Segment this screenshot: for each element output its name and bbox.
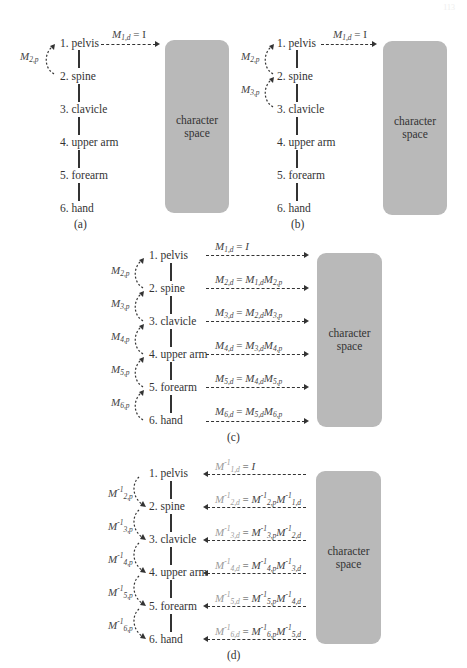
joint-pelvis: 1. pelvis [149,467,188,479]
dashed-arrow-right-icon [206,387,305,388]
curved-arrow-up-icon [133,258,147,290]
inverse-transform-label: M-11,d = I [215,457,255,476]
curved-arrow-up-icon [133,390,147,422]
local-transform-label: M3,p [111,297,130,313]
bone [296,117,298,135]
caption-c: (c) [227,431,240,443]
bone [170,296,172,314]
character-space-label: characterspace [317,327,382,353]
inverse-transform-label: M-16,d = M-16,pM-15,d [215,622,301,641]
dashed-arrow-right-icon [206,255,305,256]
bone [170,580,172,598]
curved-arrow-up-icon [263,77,277,109]
curved-arrow-down-icon [133,608,147,640]
joint-spine: 2. spine [149,282,185,294]
local-transform-label: M5,p [111,363,130,379]
caption-d: (d) [227,649,240,661]
bone [78,183,80,201]
joint-upper-arm: 4. upper arm [277,136,335,148]
curved-arrow-up-icon [133,357,147,389]
curved-arrow-up-icon [263,44,277,76]
dashed-arrow-right-icon [206,354,305,355]
bone [296,150,298,168]
joint-hand: 6. hand [149,633,183,645]
joint-forearm: 5. forearm [277,169,325,181]
dashed-arrow-left-icon [207,507,306,508]
bone [78,50,80,68]
character-space-box: characterspace [317,253,382,427]
dashed-arrow-right-icon [206,421,305,422]
bone [170,514,172,532]
local-transform-label: M6,p [111,396,130,412]
character-space-label: characterspace [316,545,381,571]
joint-hand: 6. hand [60,202,94,214]
dashed-arrow-left-icon [207,573,306,574]
character-space-box: characterspace [165,40,229,213]
joint-pelvis: 1. pelvis [149,249,188,261]
joint-hand: 6. hand [149,414,183,426]
bone [170,614,172,632]
bone [170,395,172,413]
inverse-transform-label: M-14,d = M-14,pM-13,d [215,556,301,575]
character-space-box: characterspace [383,41,447,215]
bone [296,84,298,102]
character-space-box: characterspace [316,471,381,644]
curved-arrow-down-icon [133,476,147,508]
bone [170,263,172,281]
joint-clavicle: 3. clavicle [149,315,196,327]
bone [296,183,298,201]
joint-forearm: 5. forearm [149,381,197,393]
dashed-arrow-left-icon [207,540,306,541]
global-transform-label: M5,d = M4,dM5,p [215,372,282,388]
joint-upper-arm: 4. upper arm [60,136,118,148]
bone [78,117,80,135]
joint-forearm: 5. forearm [149,600,197,612]
curved-arrow-up-icon [44,44,58,76]
joint-spine: 2. spine [60,70,96,82]
dashed-arrow-left-icon [207,606,306,607]
bone [78,150,80,168]
dashed-arrow-right-icon [321,44,373,45]
joint-clavicle: 3. clavicle [277,103,324,115]
local-inverse-label: M-16,p [108,616,133,635]
curved-arrow-down-icon [133,575,147,607]
dashed-arrow-right-icon [206,321,305,322]
curved-arrow-down-icon [133,542,147,574]
character-space-label: characterspace [165,114,229,140]
joint-forearm: 5. forearm [60,169,108,181]
joint-clavicle: 3. clavicle [60,103,107,115]
global-transform-label: M1,d = I [112,28,146,44]
joint-hand: 6. hand [277,202,311,214]
local-transform-label: M4,p [111,330,130,346]
local-transform-label: M3,p [241,83,260,99]
joint-clavicle: 3. clavicle [149,533,196,545]
bone [296,50,298,68]
dashed-arrow-right-icon [206,288,305,289]
joint-spine: 2. spine [149,500,185,512]
joint-upper-arm: 4. upper arm [149,566,207,578]
global-transform-label: M1,d = I [215,240,249,256]
dashed-arrow-left-icon [207,474,306,475]
global-transform-label: M4,d = M3,dM4,p [215,339,282,355]
dashed-arrow-right-icon [101,44,156,45]
bone [170,329,172,347]
inverse-transform-label: M-13,d = M-13,pM-12,d [215,523,301,542]
global-transform-label: M1,d = I [333,28,367,44]
global-transform-label: M6,d = M5,dM6,p [215,405,282,421]
local-inverse-label: M-15,p [108,583,133,602]
bone [170,481,172,499]
curved-arrow-down-icon [133,509,147,541]
global-transform-label: M2,d = M1,dM2,p [215,273,282,289]
joint-pelvis: 1. pelvis [277,37,316,49]
local-transform-label: M2,p [111,264,130,280]
joint-spine: 2. spine [277,70,313,82]
local-transform-label: M2,p [20,50,39,66]
bone [170,547,172,565]
page-number: 113 [443,3,455,12]
local-transform-label: M2,p [241,50,260,66]
joint-pelvis: 1. pelvis [60,37,99,49]
curved-arrow-up-icon [133,324,147,356]
character-space-label: characterspace [383,115,447,141]
curved-arrow-up-icon [133,291,147,323]
global-transform-label: M3,d = M2,dM3,p [215,306,282,322]
